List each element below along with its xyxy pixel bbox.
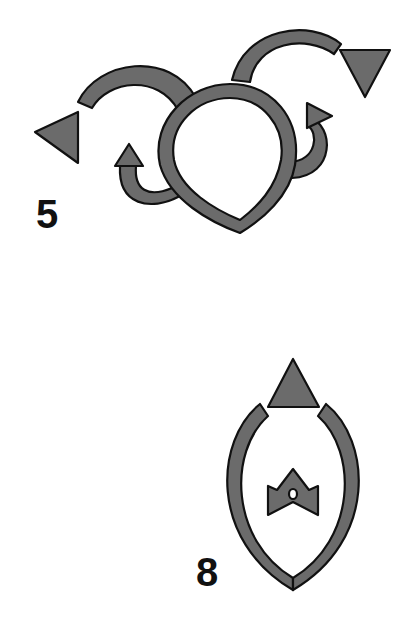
left-arc-band xyxy=(78,66,196,110)
crown-glyph-hole xyxy=(289,489,297,499)
diagram-canvas xyxy=(0,0,420,619)
top-arrowhead-icon xyxy=(268,359,319,407)
left-arrowhead-icon xyxy=(35,112,78,163)
left-hook-arrowhead-icon xyxy=(115,144,143,166)
figure-5-label: 5 xyxy=(36,192,58,237)
right-arc-band xyxy=(232,30,341,82)
figure-8-label: 8 xyxy=(196,550,218,595)
figure-5 xyxy=(35,30,390,233)
figure-8 xyxy=(227,359,358,590)
right-arrowhead-icon xyxy=(340,50,390,97)
teardrop-ring xyxy=(158,84,296,233)
